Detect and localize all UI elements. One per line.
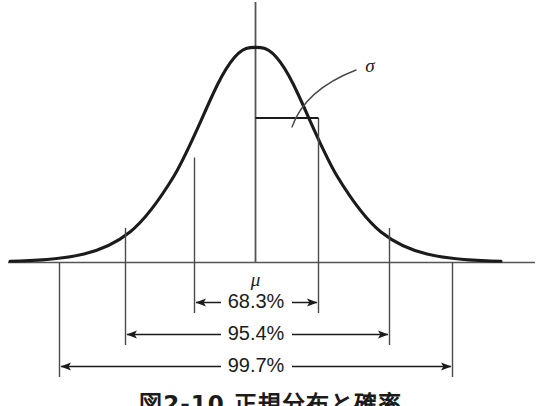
sigma-label: σ <box>365 55 375 76</box>
normal-distribution-figure: σ μ 68.3% 95.4% 99.7% 図2-10 正規分布と確率 <box>0 0 541 406</box>
mean-label: μ <box>250 269 261 290</box>
distribution-chart-svg: σ μ 68.3% 95.4% 99.7% <box>0 0 541 406</box>
dimension-one-sigma: 68.3% <box>196 290 317 312</box>
dimension-two-sigma: 95.4% <box>127 322 388 344</box>
dimension-label-95: 95.4% <box>228 322 285 344</box>
figure-caption: 図2-10 正規分布と確率 <box>0 391 541 406</box>
dimension-three-sigma: 99.7% <box>61 354 451 376</box>
dimension-label-68: 68.3% <box>228 290 285 312</box>
dimension-label-99: 99.7% <box>228 354 285 376</box>
